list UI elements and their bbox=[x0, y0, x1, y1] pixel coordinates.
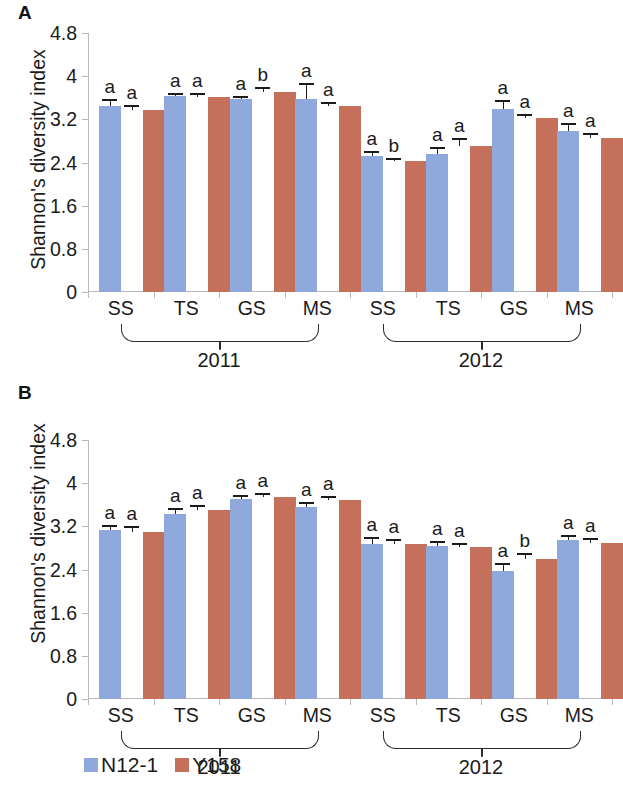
bar-slot: a bbox=[230, 440, 252, 699]
bar-slot: a bbox=[317, 33, 339, 292]
significance-letter: b bbox=[257, 65, 268, 84]
y-tick-label: 4 bbox=[66, 65, 77, 88]
bar-n12-1-gs bbox=[492, 109, 514, 292]
error-bar bbox=[241, 497, 242, 500]
y-tick-label: 4 bbox=[66, 472, 77, 495]
significance-letter: a bbox=[563, 513, 574, 532]
error-bar bbox=[503, 565, 504, 571]
error-bar-cap bbox=[495, 563, 510, 565]
bar-group: aa bbox=[557, 33, 601, 292]
error-bar bbox=[590, 135, 591, 138]
x-tick bbox=[547, 699, 548, 705]
y-tick-label: 0.8 bbox=[50, 237, 77, 260]
bar-slot: a bbox=[514, 33, 536, 292]
x-category-label: GS bbox=[500, 297, 528, 320]
x-category-label: GS bbox=[238, 297, 266, 320]
x-tick bbox=[88, 699, 89, 705]
bar-slot: a bbox=[164, 440, 186, 699]
error-bar bbox=[328, 104, 329, 106]
panel-b-bars: aaaaaaaaaaaaabaa bbox=[88, 440, 612, 699]
x-tick bbox=[285, 699, 286, 705]
bar-group: aa bbox=[99, 33, 143, 292]
error-bar bbox=[568, 537, 569, 540]
significance-letter: a bbox=[192, 483, 203, 502]
error-bar bbox=[328, 498, 329, 501]
x-category-label: MS bbox=[303, 704, 332, 727]
x-tick bbox=[612, 292, 613, 298]
bar-y158-ms bbox=[339, 106, 361, 292]
bar-y158-ms bbox=[601, 138, 623, 292]
bar-slot: a bbox=[295, 33, 317, 292]
error-bar-cap bbox=[364, 151, 379, 153]
bar-group: aa bbox=[426, 440, 470, 699]
significance-letter: b bbox=[519, 531, 530, 550]
bar-slot: a bbox=[99, 440, 121, 699]
error-bar-cap bbox=[190, 93, 205, 95]
significance-letter: a bbox=[257, 471, 268, 490]
error-bar-cap bbox=[124, 105, 139, 107]
bar-n12-1-ms bbox=[557, 540, 579, 699]
error-bar-cap bbox=[168, 508, 183, 510]
error-bar bbox=[132, 528, 133, 532]
bar-y158-gs bbox=[274, 497, 296, 699]
bar-slot: b bbox=[383, 33, 405, 292]
error-bar-cap bbox=[583, 538, 598, 540]
x-category-label: SS bbox=[370, 297, 396, 320]
x-tick bbox=[350, 699, 351, 705]
panel-a-bars: aaaaabaaabaaaaaa bbox=[88, 33, 612, 292]
x-category-label: SS bbox=[370, 704, 396, 727]
bar-slot: a bbox=[252, 440, 274, 699]
error-bar bbox=[459, 140, 460, 146]
bar-y158-ts bbox=[470, 547, 492, 699]
bar-group: aa bbox=[557, 440, 601, 699]
x-tick bbox=[219, 292, 220, 298]
bar-n12-1-ts bbox=[426, 154, 448, 292]
bar-group: aa bbox=[230, 440, 274, 699]
bar-slot: a bbox=[317, 440, 339, 699]
bar-slot: a bbox=[164, 33, 186, 292]
year-label: 2012 bbox=[459, 349, 504, 372]
error-bar-cap bbox=[561, 535, 576, 537]
error-bar-cap bbox=[168, 93, 183, 95]
error-bar bbox=[197, 95, 198, 97]
bar-n12-1-gs bbox=[230, 499, 252, 699]
significance-letter: a bbox=[170, 486, 181, 505]
bar-y158-gs bbox=[536, 559, 558, 699]
error-bar-cap bbox=[190, 505, 205, 507]
bar-n12-1-ss bbox=[99, 530, 121, 699]
error-bar-cap bbox=[124, 526, 139, 528]
significance-letter: a bbox=[432, 125, 443, 144]
significance-letter: a bbox=[126, 83, 137, 102]
bar-n12-1-ms bbox=[295, 99, 317, 292]
bar-slot: a bbox=[579, 33, 601, 292]
y-tick-label: 0.8 bbox=[50, 644, 77, 667]
error-bar bbox=[437, 543, 438, 546]
error-bar-cap bbox=[517, 114, 532, 116]
bar-group: aa bbox=[295, 33, 339, 292]
error-bar-cap bbox=[233, 96, 248, 98]
bar-slot: a bbox=[492, 440, 514, 699]
significance-letter: a bbox=[192, 71, 203, 90]
error-bar-cap bbox=[495, 100, 510, 102]
bar-group: ab bbox=[492, 440, 536, 699]
bar-slot: a bbox=[426, 33, 448, 292]
bar-y158-ms bbox=[339, 500, 361, 699]
panel-b-plot-area: 00.81.62.43.244.8 aaaaaaaaaaaaabaa bbox=[88, 440, 612, 699]
year-brace bbox=[383, 324, 582, 342]
significance-letter: a bbox=[366, 129, 377, 148]
y-tick-label: 0 bbox=[66, 688, 77, 711]
error-bar bbox=[503, 102, 504, 108]
bar-slot: a bbox=[121, 33, 143, 292]
x-tick bbox=[350, 292, 351, 298]
error-bar-cap bbox=[517, 553, 532, 555]
significance-letter: a bbox=[388, 517, 399, 536]
bar-slot: a bbox=[448, 440, 470, 699]
bar-y158-ts bbox=[208, 510, 230, 699]
bar-y158-ts bbox=[470, 146, 492, 292]
bar-slot: a bbox=[557, 440, 579, 699]
error-bar-cap bbox=[561, 123, 576, 125]
bar-group: ab bbox=[230, 33, 274, 292]
significance-letter: a bbox=[301, 61, 312, 80]
error-bar-cap bbox=[452, 138, 467, 140]
